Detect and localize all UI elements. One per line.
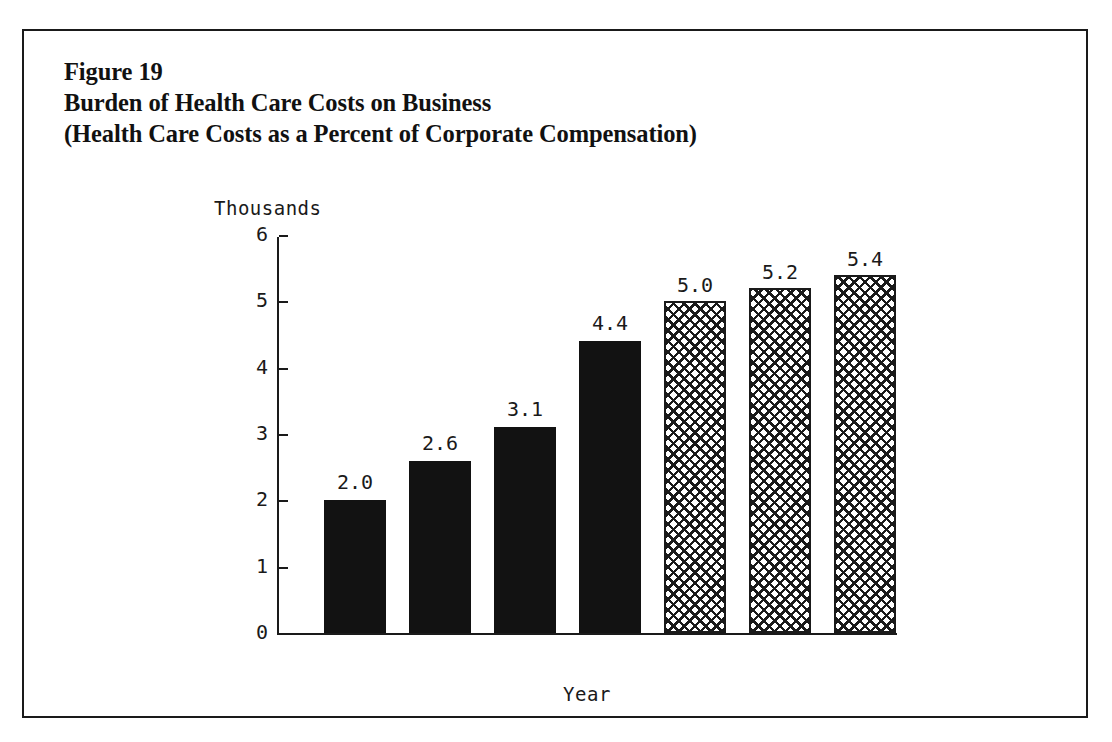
y-axis-tick-label: 0 [256, 621, 268, 643]
bar[interactable]: 5.4 [834, 275, 896, 633]
y-axis-tick: 1 [277, 567, 288, 569]
y-axis-unit-label: Thousands [214, 197, 321, 219]
bar[interactable]: 2.0 [324, 500, 386, 633]
y-axis-tick-mark [279, 567, 288, 569]
bar-value-label: 5.4 [847, 248, 883, 270]
y-axis-tick-label: 3 [256, 422, 268, 444]
y-axis-line [277, 237, 279, 635]
x-axis-line [277, 633, 897, 635]
y-axis-tick-label: 4 [256, 356, 268, 378]
y-axis-tick-label: 2 [256, 488, 268, 510]
bar-chart: Thousands 0123456 2.019702.619753.119804… [24, 31, 1090, 720]
y-axis-tick: 5 [277, 301, 288, 303]
bar[interactable]: 2.6 [409, 461, 471, 633]
bar-value-label: 3.1 [507, 398, 543, 420]
y-axis-tick-label: 5 [256, 289, 268, 311]
y-axis-tick-mark [279, 633, 288, 635]
bar-value-label: 2.0 [337, 471, 373, 493]
x-axis-title: Year [277, 683, 897, 705]
bar[interactable]: 4.4 [579, 341, 641, 633]
y-axis-tick: 0 [277, 633, 288, 635]
y-axis-tick: 6 [277, 235, 288, 237]
bar[interactable]: 5.2 [749, 288, 811, 633]
y-axis-tick: 3 [277, 434, 288, 436]
figure-border: Figure 19 Burden of Health Care Costs on… [22, 29, 1088, 718]
plot-area: 0123456 2.019702.619753.119804.419855.01… [277, 231, 897, 641]
y-axis-tick-mark [279, 235, 288, 237]
y-axis-tick-label: 6 [256, 223, 268, 245]
bar-value-label: 5.2 [762, 261, 798, 283]
y-axis-tick-mark [279, 500, 288, 502]
bar-value-label: 5.0 [677, 274, 713, 296]
y-axis-tick-mark [279, 368, 288, 370]
y-axis-tick: 2 [277, 500, 288, 502]
y-axis-tick-mark [279, 434, 288, 436]
bar[interactable]: 5.0 [664, 301, 726, 633]
y-axis-tick: 4 [277, 368, 288, 370]
bar[interactable]: 3.1 [494, 427, 556, 633]
bar-value-label: 4.4 [592, 312, 628, 334]
bar-value-label: 2.6 [422, 432, 458, 454]
y-axis-tick-label: 1 [256, 555, 268, 577]
y-axis-tick-mark [279, 301, 288, 303]
